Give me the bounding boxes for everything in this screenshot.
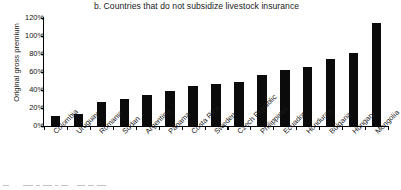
bar[interactable] xyxy=(372,23,382,127)
bar-group[interactable] xyxy=(303,18,313,126)
x-tick-mark xyxy=(365,127,366,130)
x-tick-mark xyxy=(159,127,160,130)
bar-group[interactable] xyxy=(142,18,152,126)
x-tick-mark xyxy=(182,127,183,130)
footer-smudge xyxy=(88,185,94,186)
bar-group[interactable] xyxy=(349,18,359,126)
footer-smudge xyxy=(36,185,40,186)
x-tick-mark xyxy=(388,127,389,130)
x-axis-labels: ColombiaUruguayRomaniaSudanArgentinaPana… xyxy=(0,126,393,186)
y-tick-label: 60% xyxy=(14,68,44,76)
x-tick-mark xyxy=(250,127,251,130)
x-tick-mark xyxy=(205,127,206,130)
bar-group[interactable] xyxy=(234,18,244,126)
x-tick-mark xyxy=(296,127,297,130)
bar-group[interactable] xyxy=(372,18,382,126)
x-tick-mark xyxy=(113,127,114,130)
x-tick-mark xyxy=(44,127,45,130)
bar-group[interactable] xyxy=(97,18,107,126)
y-tick-label: 120% xyxy=(14,14,44,22)
x-tick-mark xyxy=(227,127,228,130)
footer-smudge xyxy=(77,185,85,186)
x-tick-mark xyxy=(273,127,274,130)
y-tick-label: 40% xyxy=(14,86,44,94)
footer-smudge xyxy=(23,185,33,186)
x-tick-mark xyxy=(90,127,91,130)
bar-group[interactable] xyxy=(188,18,198,126)
bar[interactable] xyxy=(188,86,198,126)
x-tick-mark xyxy=(136,127,137,130)
y-tick-label: 20% xyxy=(14,104,44,112)
bar[interactable] xyxy=(234,82,244,126)
footer-smudge xyxy=(61,185,68,186)
footer-smudge xyxy=(97,185,106,186)
footer-smudge xyxy=(55,185,58,186)
x-tick-mark xyxy=(342,127,343,130)
clipped-footer-text xyxy=(3,185,123,190)
footer-smudge xyxy=(3,185,9,186)
chart-title: b. Countries that do not subsidize lives… xyxy=(0,1,393,12)
bar-group[interactable] xyxy=(51,18,61,126)
y-tick-label: 100% xyxy=(14,32,44,40)
x-tick-mark xyxy=(67,127,68,130)
x-tick-mark xyxy=(319,127,320,130)
footer-smudge xyxy=(43,185,52,186)
y-tick-label: 80% xyxy=(14,50,44,58)
